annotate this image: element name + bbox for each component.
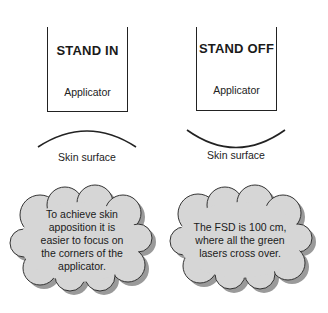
- panel-title-stand-off: STAND OFF: [197, 41, 276, 56]
- skin-surface-label: Skin surface: [186, 149, 286, 161]
- callout-line: lasers cross over.: [178, 247, 302, 260]
- callout-line: To achieve skin: [20, 208, 144, 221]
- applicator-label: Applicator: [197, 84, 276, 96]
- applicator-box-stand-in: STAND IN Applicator: [47, 27, 128, 112]
- callout-right-text: The FSD is 100 cm, where all the green l…: [178, 221, 302, 260]
- callout-line: where all the green: [178, 234, 302, 247]
- callout-left-text: To achieve skin apposition it is easier …: [20, 208, 144, 273]
- callout-line: apposition it is: [20, 221, 144, 234]
- skin-surface-convex-arc: [38, 131, 136, 147]
- callout-line: the corners of the: [20, 247, 144, 260]
- panel-title-stand-in: STAND IN: [48, 43, 127, 58]
- callout-line: applicator.: [20, 260, 144, 273]
- applicator-label: Applicator: [48, 86, 127, 98]
- skin-surface-concave-arc: [187, 130, 285, 148]
- skin-surface-label: Skin surface: [37, 151, 137, 163]
- callout-line: The FSD is 100 cm,: [178, 221, 302, 234]
- callout-line: easier to focus on: [20, 234, 144, 247]
- applicator-box-stand-off: STAND OFF Applicator: [196, 27, 277, 111]
